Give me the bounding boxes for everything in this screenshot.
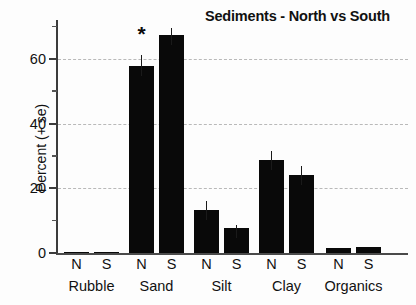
- bar-organics-s: [356, 247, 381, 253]
- x-sublabel-clay-n: N: [266, 256, 276, 272]
- y-tick-label-40: 40: [30, 116, 46, 132]
- gridline-60: [58, 59, 408, 60]
- y-tick-label-60: 60: [30, 51, 46, 67]
- x-sublabel-silt-n: N: [201, 256, 211, 272]
- chart-figure: Sediments - North vs South Percent (+ se…: [0, 0, 416, 305]
- y-tick-20: [49, 187, 57, 189]
- plot-area: 0204060 *: [56, 20, 408, 254]
- y-minor-tick-70: [52, 26, 57, 28]
- y-minor-tick-50: [52, 90, 57, 92]
- y-minor-tick-10: [52, 220, 57, 222]
- y-tick-label-0: 0: [38, 245, 46, 261]
- y-tick-40: [49, 123, 57, 125]
- errorbar-silt-s: [236, 225, 238, 238]
- bar-clay-s: [289, 175, 314, 253]
- bar-rubble-s: [94, 252, 119, 253]
- bar-rubble-n: [64, 252, 89, 253]
- x-sublabel-rubble-s: S: [102, 256, 112, 272]
- x-sublabel-clay-s: S: [297, 256, 307, 272]
- x-sublabel-sand-n: N: [136, 256, 146, 272]
- x-sublabel-sand-s: S: [167, 256, 177, 272]
- y-tick-60: [49, 58, 57, 60]
- x-group-label-rubble: Rubble: [69, 278, 115, 294]
- gridline-20: [58, 188, 408, 189]
- y-axis-label: Percent (+ se): [33, 68, 49, 228]
- errorbar-clay-n: [271, 151, 273, 170]
- x-sublabel-organics-n: N: [333, 256, 343, 272]
- errorbar-sand-s: [171, 28, 173, 44]
- x-group-label-clay: Clay: [272, 278, 301, 294]
- errorbar-clay-s: [301, 166, 303, 186]
- y-tick-0: [49, 252, 57, 254]
- y-minor-tick-30: [52, 155, 57, 157]
- x-sublabel-rubble-n: N: [71, 256, 81, 272]
- x-group-label-sand: Sand: [140, 278, 174, 294]
- bar-organics-n: [326, 248, 351, 253]
- x-group-label-silt: Silt: [211, 278, 231, 294]
- x-axis-line: [56, 253, 408, 255]
- bar-sand-n: [129, 66, 154, 253]
- significance-star-sand-n: *: [137, 23, 145, 44]
- x-group-label-organics: Organics: [324, 278, 382, 294]
- errorbar-silt-n: [206, 201, 208, 221]
- bar-sand-s: [159, 35, 184, 253]
- errorbar-sand-n: [141, 55, 143, 76]
- x-sublabel-organics-s: S: [364, 256, 374, 272]
- y-tick-label-20: 20: [30, 180, 46, 196]
- x-sublabel-silt-s: S: [232, 256, 242, 272]
- gridline-40: [58, 124, 408, 125]
- bar-clay-n: [259, 160, 284, 253]
